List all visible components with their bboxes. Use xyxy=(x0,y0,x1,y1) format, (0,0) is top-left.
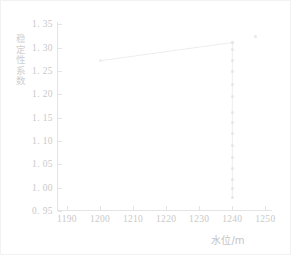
y-axis-tick xyxy=(58,211,62,212)
x-axis-title: 水位/m xyxy=(211,232,244,247)
y-axis-tick-label: 1. 30 xyxy=(32,43,53,53)
x-axis-tick-label: 1240 xyxy=(222,214,242,224)
y-axis-tick-label: 1. 00 xyxy=(32,183,53,193)
x-axis-tick-label: 1210 xyxy=(123,214,143,224)
data-point-marker xyxy=(231,156,234,159)
data-point-marker xyxy=(231,48,234,51)
plot-area: 0. 951. 001. 051. 101. 151. 201. 251. 30… xyxy=(57,22,272,211)
y-axis-tick-label: 1. 20 xyxy=(32,89,53,99)
data-point-marker xyxy=(231,144,234,147)
y-axis-tick-label: 1. 05 xyxy=(32,159,53,169)
y-axis-tick-label: 1. 35 xyxy=(32,19,53,29)
data-point-marker xyxy=(99,59,102,62)
series-layer xyxy=(57,22,272,211)
chart-figure: 稳定性系数 水位/m 0. 951. 001. 051. 101. 151. 2… xyxy=(0,0,291,255)
outlier-point-marker xyxy=(254,35,257,38)
x-axis-tick-label: 1190 xyxy=(57,214,77,224)
data-point-marker xyxy=(231,132,234,135)
data-point-marker xyxy=(231,59,234,62)
x-axis-tick-label: 1200 xyxy=(90,214,110,224)
data-point-marker xyxy=(231,167,234,170)
data-point-marker xyxy=(231,83,234,86)
y-axis-tick-label: 1. 10 xyxy=(32,136,53,146)
data-point-marker xyxy=(231,187,234,190)
y-axis-tick-label: 0. 95 xyxy=(32,206,53,216)
data-point-marker xyxy=(231,41,234,44)
y-axis-title: 稳定性系数 xyxy=(14,34,27,87)
y-axis-tick-label: 1. 15 xyxy=(32,113,53,123)
x-axis-tick-label: 1230 xyxy=(189,214,209,224)
data-point-marker xyxy=(231,111,234,114)
y-axis-tick-label: 1. 25 xyxy=(32,66,53,76)
data-point-marker xyxy=(231,178,234,181)
data-point-marker xyxy=(231,95,234,98)
x-axis-tick-label: 1250 xyxy=(255,214,275,224)
data-point-marker xyxy=(231,121,234,124)
series-line xyxy=(100,43,232,61)
x-axis-tick-label: 1220 xyxy=(156,214,176,224)
